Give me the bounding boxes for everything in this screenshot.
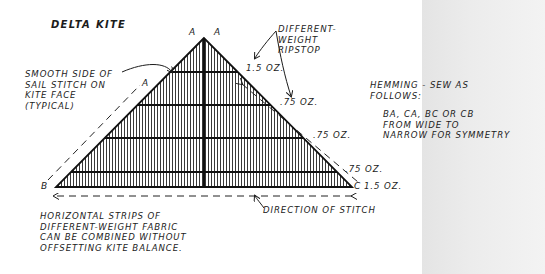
horizontal-strips-note: HORIZONTAL STRIPS OF DIFFERENT-WEIGHT FA… <box>40 211 187 253</box>
vertex-label-left-edge: A <box>142 78 149 89</box>
weight-label-strip-4: .75 OZ. <box>345 164 383 175</box>
kite-sail <box>40 38 370 188</box>
hemming-detail: BA, CA, BC OR CB FROM WIDE TO NARROW FOR… <box>383 109 510 141</box>
diagram-title: DELTA KITE <box>51 20 126 31</box>
vertex-label-apex-left: A <box>189 27 196 38</box>
hemming-note: HEMMING - SEW AS FOLLOWS: <box>370 80 469 101</box>
vertex-label-apex-right: A <box>214 27 221 38</box>
ripstop-arrow-1 <box>255 31 276 58</box>
weight-label-strip-2: .75 OZ. <box>280 97 318 108</box>
weight-label-strip-3: .75 OZ. <box>313 130 351 141</box>
vertex-label-c: C <box>354 181 361 192</box>
ripstop-note: DIFFERENT- WEIGHT RIPSTOP <box>278 24 336 56</box>
weight-label-strip-1: 1.5 OZ. <box>246 63 284 74</box>
direction-of-stitch-label: DIRECTION OF STITCH <box>263 205 376 216</box>
smooth-side-note: SMOOTH SIDE OF SAIL STITCH ON KITE FACE … <box>25 69 113 111</box>
smooth-side-arrow <box>122 65 172 73</box>
weight-label-strip-5: 1.5 OZ. <box>364 181 402 192</box>
vertex-label-b: B <box>41 181 48 192</box>
